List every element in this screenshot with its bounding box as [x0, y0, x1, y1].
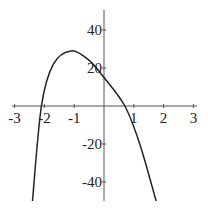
y-tick-label: 40: [87, 22, 102, 38]
x-tick-label: 3: [190, 110, 198, 126]
y-tick-label: -40: [82, 174, 102, 190]
y-tick-label: -20: [82, 136, 102, 152]
x-tick-labels: -3-2-1123: [8, 104, 197, 126]
y-tick-label: 20: [87, 60, 102, 76]
x-tick-label: 2: [160, 110, 168, 126]
plot-area: -3-2-1123 4020-20-40: [0, 0, 208, 215]
x-tick-label: -1: [68, 110, 81, 126]
x-tick-label: -3: [8, 110, 21, 126]
chart: -3-2-1123 4020-20-40: [0, 0, 208, 215]
